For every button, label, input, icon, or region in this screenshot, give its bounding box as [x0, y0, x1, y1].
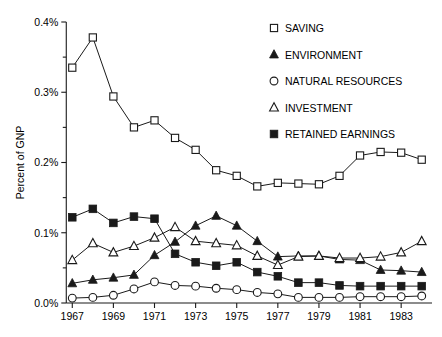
- data-point-marker: [212, 284, 220, 292]
- legend-item-investment: INVESTMENT: [270, 102, 354, 114]
- data-point-marker: [68, 213, 76, 221]
- data-point-marker: [110, 219, 118, 227]
- data-point-marker: [88, 238, 97, 246]
- data-point-marker: [377, 293, 385, 301]
- data-point-marker: [294, 293, 302, 301]
- legend-label: NATURAL RESOURCES: [285, 75, 402, 87]
- data-point-marker: [109, 291, 117, 299]
- series-line: [72, 216, 421, 283]
- data-point-marker: [212, 211, 221, 219]
- data-point-marker: [397, 266, 406, 274]
- series-investment: [68, 222, 426, 268]
- x-tick-label: 1977: [266, 310, 290, 322]
- data-point-marker: [295, 279, 303, 287]
- data-point-marker: [254, 183, 261, 190]
- data-point-marker: [418, 282, 426, 290]
- legend-label: ENVIRONMENT: [285, 49, 363, 61]
- data-point-marker: [171, 222, 180, 230]
- y-tick-label: 0.4%: [34, 16, 58, 28]
- data-point-marker: [397, 282, 405, 290]
- data-point-marker: [376, 265, 385, 273]
- data-point-marker: [212, 262, 220, 270]
- legend-item-natural-resources: NATURAL RESOURCES: [270, 75, 402, 87]
- series-line: [72, 282, 421, 298]
- series-retained-earnings: [68, 205, 425, 290]
- x-tick-label: 1971: [143, 310, 167, 322]
- series-saving: [69, 34, 426, 190]
- series-line: [72, 37, 421, 186]
- data-point-marker: [418, 292, 426, 300]
- x-tick-label: 1979: [307, 310, 331, 322]
- data-point-marker: [192, 146, 199, 153]
- data-point-marker: [274, 290, 282, 298]
- data-point-marker: [130, 213, 138, 221]
- data-point-marker: [171, 134, 178, 141]
- data-point-marker: [397, 293, 405, 301]
- data-point-marker: [356, 282, 364, 290]
- data-point-marker: [130, 285, 138, 293]
- x-tick-label: 1973: [184, 310, 208, 322]
- x-tick-label: 1969: [102, 310, 126, 322]
- data-point-marker: [253, 289, 261, 297]
- data-point-marker: [233, 172, 240, 179]
- y-tick-label: 0.1%: [34, 227, 58, 239]
- data-point-marker: [233, 286, 241, 294]
- y-axis-title: Percent of GNP: [14, 126, 26, 200]
- legend-item-retained-earnings: RETAINED EARNINGS: [270, 128, 395, 140]
- data-point-marker: [232, 221, 241, 229]
- data-point-marker: [233, 258, 241, 266]
- data-point-marker: [397, 248, 406, 256]
- legend-item-saving: SAVING: [270, 22, 324, 34]
- legend-label: RETAINED EARNINGS: [285, 128, 395, 140]
- y-tick-label: 0.0%: [34, 297, 58, 309]
- data-point-marker: [417, 236, 426, 244]
- data-point-marker: [315, 293, 323, 301]
- chart-container: 0.0%0.1%0.2%0.3%0.4%19671969197119731975…: [0, 0, 442, 337]
- data-point-marker: [418, 156, 425, 163]
- data-point-marker: [356, 293, 364, 301]
- y-tick-label: 0.2%: [34, 156, 58, 168]
- data-point-marker: [151, 215, 159, 223]
- data-point-marker: [151, 278, 159, 286]
- data-point-marker: [273, 252, 282, 260]
- data-point-marker: [253, 251, 262, 259]
- data-point-marker: [336, 172, 343, 179]
- x-tick-label: 1967: [61, 310, 85, 322]
- data-point-marker: [171, 250, 179, 258]
- series-natural-resources: [68, 278, 425, 302]
- data-point-marker: [192, 258, 200, 266]
- data-point-marker: [68, 255, 77, 263]
- data-point-marker: [191, 221, 200, 229]
- x-tick-label: 1983: [389, 310, 413, 322]
- data-point-marker: [89, 34, 96, 41]
- data-point-marker: [253, 236, 262, 244]
- data-point-marker: [110, 93, 117, 100]
- data-point-marker: [377, 282, 385, 290]
- data-point-marker: [192, 282, 200, 290]
- data-point-marker: [171, 282, 179, 290]
- legend-marker-icon: [270, 103, 279, 111]
- data-point-marker: [315, 181, 322, 188]
- legend-marker-icon: [270, 77, 278, 85]
- data-point-marker: [89, 205, 97, 213]
- series-line: [72, 209, 421, 286]
- data-point-marker: [150, 233, 159, 241]
- data-point-marker: [130, 124, 137, 131]
- legend-marker-icon: [270, 130, 278, 138]
- data-point-marker: [191, 236, 200, 244]
- data-point-marker: [295, 180, 302, 187]
- data-point-marker: [315, 279, 323, 287]
- series-line: [72, 227, 421, 265]
- legend: SAVINGENVIRONMENTNATURAL RESOURCESINVEST…: [270, 22, 403, 140]
- data-point-marker: [213, 167, 220, 174]
- y-tick-label: 0.3%: [34, 86, 58, 98]
- data-point-marker: [356, 152, 363, 159]
- series-environment: [68, 211, 426, 287]
- gnp-percent-line-chart: 0.0%0.1%0.2%0.3%0.4%19671969197119731975…: [0, 0, 442, 337]
- data-point-marker: [89, 293, 97, 301]
- data-point-marker: [377, 148, 384, 155]
- legend-label: SAVING: [285, 22, 324, 34]
- legend-marker-icon: [270, 24, 277, 31]
- data-point-marker: [171, 237, 180, 245]
- data-point-marker: [336, 293, 344, 301]
